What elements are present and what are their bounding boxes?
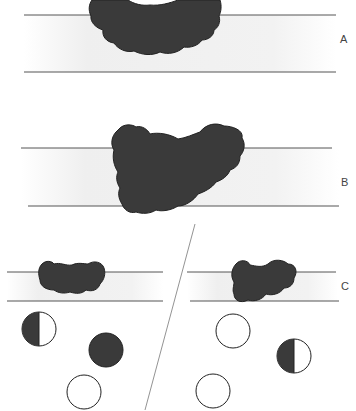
circle-half-filled	[22, 312, 56, 346]
panel-label-b: B	[341, 176, 348, 188]
panel-c-right: C	[187, 260, 349, 408]
panel-a: A	[24, 0, 348, 72]
mass-c-left	[39, 261, 105, 293]
diagram-canvas: A B C	[0, 0, 356, 411]
panel-c-left	[7, 261, 163, 409]
panel-label-c: C	[341, 280, 349, 292]
circle-empty	[196, 374, 230, 408]
panel-b: B	[21, 124, 348, 213]
panel-label-a: A	[340, 33, 348, 45]
circle-half-filled	[277, 339, 311, 373]
circle-empty	[67, 375, 101, 409]
circle-empty	[216, 314, 250, 348]
circle-filled	[89, 333, 123, 367]
divider-line	[145, 224, 195, 410]
